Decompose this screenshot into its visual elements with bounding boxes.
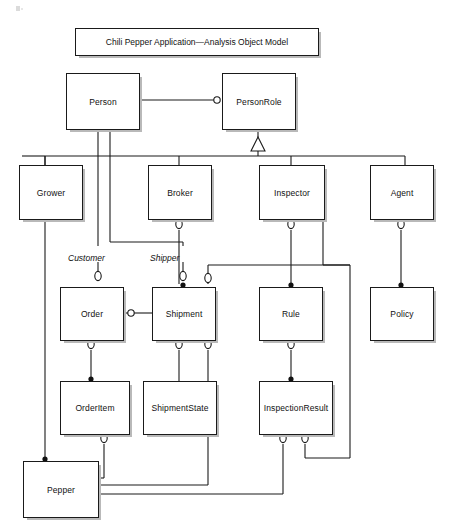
class-label: Agent <box>391 188 414 198</box>
scan-artifact <box>14 5 28 17</box>
class-node-policy[interactable]: Policy <box>370 287 434 341</box>
class-node-personrole[interactable]: PersonRole <box>222 73 296 130</box>
class-label: Pepper <box>47 485 75 495</box>
class-label: PersonRole <box>236 97 281 107</box>
class-label: Broker <box>167 188 193 198</box>
class-node-inspector[interactable]: Inspector <box>259 165 325 220</box>
page-title: Chili Pepper Application—Analysis Object… <box>106 37 288 47</box>
class-label: Person <box>89 97 117 107</box>
class-node-agent[interactable]: Agent <box>370 165 434 220</box>
class-node-shipment[interactable]: Shipment <box>152 287 216 341</box>
class-node-inspectionresult[interactable]: InspectionResult <box>259 381 333 435</box>
class-node-grower[interactable]: Grower <box>19 165 83 220</box>
class-label: Inspector <box>274 188 310 198</box>
class-label: ShipmentState <box>151 403 208 413</box>
class-label: Grower <box>37 188 65 198</box>
class-label: Rule <box>282 309 300 319</box>
class-label: InspectionResult <box>264 403 328 413</box>
class-label: Shipment <box>166 309 203 319</box>
generalization-triangle-icon <box>251 137 265 151</box>
role-label-shipper: Shipper <box>150 253 179 263</box>
class-label: OrderItem <box>75 403 114 413</box>
class-node-broker[interactable]: Broker <box>148 165 212 220</box>
class-node-person[interactable]: Person <box>66 73 140 130</box>
diagram-title-box: Chili Pepper Application—Analysis Object… <box>75 28 319 56</box>
class-node-pepper[interactable]: Pepper <box>23 461 99 518</box>
class-node-order[interactable]: Order <box>60 287 124 341</box>
class-label: Order <box>81 309 103 319</box>
class-node-shipmentstate[interactable]: ShipmentState <box>143 381 217 435</box>
diagram-canvas: Chili Pepper Application—Analysis Object… <box>0 0 456 532</box>
class-node-orderitem[interactable]: OrderItem <box>60 381 130 435</box>
class-label: Policy <box>390 309 413 319</box>
class-node-rule[interactable]: Rule <box>259 287 323 341</box>
role-label-customer: Customer <box>68 253 105 263</box>
